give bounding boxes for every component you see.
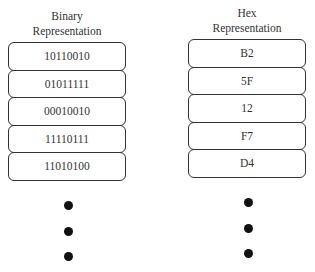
ellipsis-dot-icon <box>244 249 253 258</box>
binary-value-box: 11110111 <box>8 125 126 154</box>
binary-title: Binary Representation <box>8 9 126 39</box>
hex-value-box: B2 <box>188 39 306 68</box>
binary-value-box: 01011111 <box>8 70 126 99</box>
ellipsis-dot-icon <box>64 252 73 261</box>
ellipsis-dot-icon <box>64 227 73 236</box>
ellipsis-dot-icon <box>244 224 253 233</box>
binary-list: 10110010 01011111 00010010 11110111 1101… <box>8 42 126 181</box>
hex-title: Hex Representation <box>188 6 306 36</box>
binary-value-box: 10110010 <box>8 42 126 71</box>
ellipsis-dot-icon <box>244 198 253 207</box>
hex-value-box: 12 <box>188 94 306 123</box>
binary-column: Binary Representation 10110010 01011111 … <box>8 0 126 181</box>
ellipsis-dot-icon <box>64 201 73 210</box>
binary-value-box: 11010100 <box>8 152 126 181</box>
hex-list: B2 5F 12 F7 D4 <box>188 39 306 178</box>
binary-value-box: 00010010 <box>8 97 126 126</box>
hex-value-box: F7 <box>188 122 306 151</box>
hex-value-box: D4 <box>188 149 306 178</box>
hex-column: Hex Representation B2 5F 12 F7 D4 <box>188 0 306 178</box>
hex-value-box: 5F <box>188 67 306 96</box>
